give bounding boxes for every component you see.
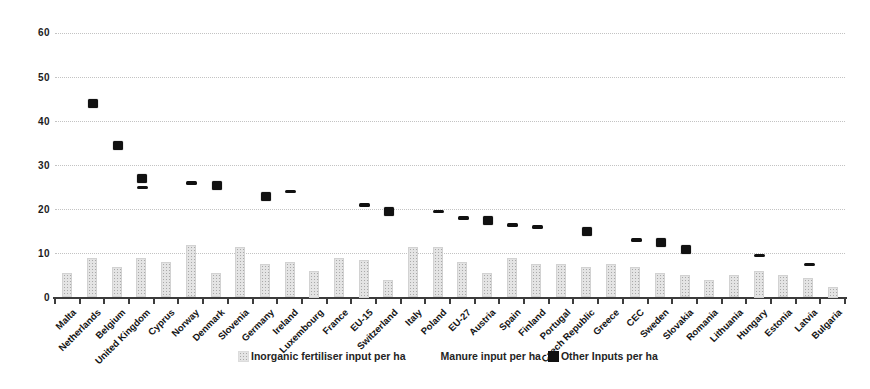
x-axis-tick	[597, 299, 599, 304]
x-axis-tick	[449, 299, 451, 304]
gridline-10	[55, 253, 845, 254]
x-axis-label-greece: Greece	[591, 307, 622, 338]
bar-cec	[630, 267, 640, 298]
x-axis-tick	[572, 299, 574, 304]
x-axis-tick	[202, 299, 204, 304]
marker-other-cec	[631, 238, 642, 242]
legend-label-other: Other Inputs per ha	[561, 350, 658, 362]
bar-spain	[507, 258, 517, 298]
y-axis-label-30: 30	[16, 160, 50, 171]
x-axis-tick	[54, 299, 56, 304]
marker-manure-denmark	[212, 181, 222, 190]
x-axis-tick	[671, 299, 673, 304]
bar-greece	[606, 264, 616, 297]
bar-sweden	[655, 273, 665, 297]
bar-lithuania	[729, 275, 739, 297]
gridline-30	[55, 165, 845, 166]
x-axis-tick	[424, 299, 426, 304]
x-axis-label-italy: Italy	[403, 307, 424, 328]
bar-france	[334, 258, 344, 298]
bar-cyprus	[161, 262, 171, 297]
bar-switzerland	[383, 280, 393, 298]
bar-ireland	[285, 262, 295, 297]
bar-slovakia	[680, 275, 690, 297]
bar-romania	[704, 280, 714, 298]
x-axis-tick	[844, 299, 846, 304]
marker-manure-czech-republic	[582, 227, 592, 236]
x-axis-tick	[79, 299, 81, 304]
x-axis-tick	[128, 299, 130, 304]
marker-manure-germany	[261, 192, 271, 201]
marker-other-spain	[507, 223, 518, 227]
marker-manure-switzerland	[384, 207, 394, 216]
marker-manure-belgium	[113, 141, 123, 150]
x-axis-tick	[153, 299, 155, 304]
x-axis-tick	[252, 299, 254, 304]
x-axis-tick	[647, 299, 649, 304]
bar-malta	[62, 273, 72, 297]
x-axis-tick	[326, 299, 328, 304]
gridline-50	[55, 77, 845, 78]
bar-norway	[186, 245, 196, 298]
x-axis-tick	[350, 299, 352, 304]
legend: Inorganic fertiliser input per ha Manure…	[238, 350, 658, 362]
legend-label-inorganic: Inorganic fertiliser input per ha	[251, 350, 406, 362]
x-axis-tick	[548, 299, 550, 304]
bar-poland	[433, 247, 443, 298]
bar-netherlands	[87, 258, 97, 298]
x-axis-tick	[227, 299, 229, 304]
x-axis-tick	[498, 299, 500, 304]
y-axis-label-20: 20	[16, 204, 50, 215]
x-axis-label-austria: Austria	[467, 307, 498, 338]
bar-bulgaria	[828, 287, 838, 298]
x-axis-tick	[276, 299, 278, 304]
legend-label-manure: Manure input per ha	[441, 350, 541, 362]
x-axis-tick	[301, 299, 303, 304]
bar-denmark	[211, 273, 221, 297]
x-axis-tick	[523, 299, 525, 304]
x-axis-tick	[721, 299, 723, 304]
bar-austria	[482, 273, 492, 297]
marker-other-latvia	[804, 263, 815, 267]
x-axis-tick	[400, 299, 402, 304]
marker-other-ireland	[285, 190, 296, 194]
manure-swatch-icon	[428, 351, 439, 362]
bar-germany	[260, 264, 270, 297]
x-axis-tick	[745, 299, 747, 304]
y-axis-label-40: 40	[16, 116, 50, 127]
x-axis-tick	[770, 299, 772, 304]
bar-united-kingdom	[136, 258, 146, 298]
gridline-20	[55, 209, 845, 210]
bar-estonia	[778, 275, 788, 297]
bar-hungary	[754, 271, 764, 298]
nutrient-input-chart: 0102030405060MaltaNetherlandsBelgiumUnit…	[0, 0, 870, 389]
x-axis-tick	[177, 299, 179, 304]
inorganic-fertiliser-swatch-icon	[238, 351, 249, 362]
y-axis-label-0: 0	[16, 292, 50, 303]
marker-manure-united-kingdom	[137, 174, 147, 183]
x-axis-tick	[819, 299, 821, 304]
other-inputs-swatch-icon	[548, 351, 559, 362]
bar-eu-15	[359, 260, 369, 298]
y-axis-label-50: 50	[16, 72, 50, 83]
bar-czech-republic	[581, 267, 591, 298]
bar-finland	[531, 264, 541, 297]
gridline-60	[55, 33, 845, 34]
x-axis-tick	[474, 299, 476, 304]
y-axis-label-60: 60	[16, 27, 50, 38]
x-axis-label-poland: Poland	[418, 307, 448, 337]
y-axis-label-10: 10	[16, 248, 50, 259]
gridline-40	[55, 121, 845, 122]
bar-eu-27	[457, 262, 467, 297]
bar-belgium	[112, 267, 122, 298]
x-axis-tick	[622, 299, 624, 304]
x-axis-tick	[375, 299, 377, 304]
marker-other-finland	[532, 225, 543, 229]
marker-other-poland	[433, 210, 444, 214]
marker-manure-austria	[483, 216, 493, 225]
x-axis-tick	[795, 299, 797, 304]
marker-manure-netherlands	[88, 99, 98, 108]
marker-manure-slovakia	[681, 245, 691, 254]
bar-slovenia	[235, 247, 245, 298]
x-axis-tick	[103, 299, 105, 304]
